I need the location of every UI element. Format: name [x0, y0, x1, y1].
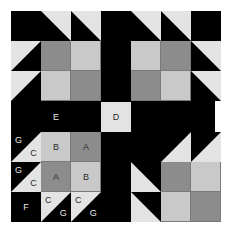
patch-r0-c1: B: [41, 132, 71, 162]
patch-label-b: B: [41, 132, 71, 162]
patch-r0-c0: [191, 192, 221, 222]
patch-r2-c1: CG: [41, 192, 71, 222]
patch-r0-c0: [131, 11, 161, 41]
patch-r2-c2: [71, 71, 101, 101]
patch-r0-c1: [41, 11, 71, 41]
patch-r1-c0: [191, 162, 221, 192]
top-right-block: [131, 11, 221, 101]
sashing-center-square-d: D: [101, 102, 131, 132]
sashing-strip-e: E: [11, 102, 101, 132]
patch-r1-c0: GC: [11, 162, 41, 192]
patch-r2-c2: CG: [71, 192, 101, 222]
patch-r2-c0: [131, 71, 161, 101]
patch-r2-c0: [191, 132, 221, 162]
bottom-right-block: [131, 132, 221, 222]
sashing-strip-right: [131, 102, 215, 132]
top-left-block: [11, 11, 101, 101]
patch-r1-c0: [11, 41, 41, 71]
patch-r0-c0: GC: [11, 132, 41, 162]
patch-r1-c2: [191, 41, 221, 71]
patch-r2-c2: [131, 132, 161, 162]
patch-r2-c1: [41, 71, 71, 101]
patch-r2-c0: [11, 71, 41, 101]
patch-label-f: F: [11, 192, 41, 222]
patch-r0-c1: [161, 192, 191, 222]
patch-r1-c1: A: [41, 162, 71, 192]
quilt-block-diagram: E D GCBAGCABFCGCG: [11, 11, 215, 222]
patch-r1-c2: B: [71, 162, 101, 192]
patch-r2-c0: F: [11, 192, 41, 222]
patch-r0-c0: [11, 11, 41, 41]
patch-r2-c1: [161, 132, 191, 162]
patch-label-a: A: [41, 162, 71, 192]
sashing-label-e: E: [11, 102, 101, 132]
patch-label-a: A: [71, 132, 101, 162]
bottom-left-block: GCBAGCABFCGCG: [11, 132, 101, 222]
patch-r1-c1: [161, 41, 191, 71]
patch-r0-c2: [71, 11, 101, 41]
patch-label-b: B: [71, 162, 101, 192]
patch-r0-c2: [131, 192, 161, 222]
patch-r1-c1: [41, 41, 71, 71]
patch-r2-c1: [161, 71, 191, 101]
patch-r1-c2: [131, 162, 161, 192]
patch-r0-c1: [161, 11, 191, 41]
patch-r0-c2: [191, 11, 221, 41]
patch-r1-c2: [71, 41, 101, 71]
patch-r1-c0: [131, 41, 161, 71]
sashing-label-d: D: [101, 102, 131, 132]
sashing-strip-vertical-top: [101, 11, 131, 102]
sashing-strip-vertical-bottom: [101, 132, 131, 222]
patch-r1-c1: [161, 162, 191, 192]
patch-r2-c2: [191, 71, 221, 101]
patch-r0-c2: A: [71, 132, 101, 162]
